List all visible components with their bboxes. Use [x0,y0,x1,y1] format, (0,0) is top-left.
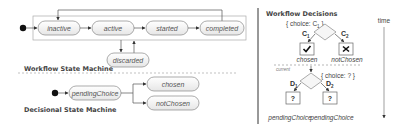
state-discarded: discarded [107,53,149,67]
workflow-state-machine-title: Workflow State Machine [24,65,114,73]
state-label-chosen: chosen [297,56,318,63]
bottom-choice-label: { choice: ? } [321,72,356,80]
workflow-decisions: Workflow Decisions { choice: C1 } C1 C2 … [266,10,391,122]
diagram-canvas: inactive active started completed discar… [0,0,407,129]
branch-label-c1: C1 [302,30,310,39]
question-icon: ? [328,95,332,102]
state-active: active [92,21,134,35]
workflow-decisions-title: Workflow Decisions [266,10,338,18]
time-label: time [378,17,391,24]
decision-diamond-bottom [300,73,322,89]
svg-text:notChosen: notChosen [156,100,190,107]
branch-label-d1: D1 [290,80,298,89]
question-icon: ? [291,95,295,102]
state-started: started [146,21,188,35]
branch-label-d2: D2 [326,80,334,89]
initial-node-icon [20,25,26,31]
state-chosen: chosen [147,77,199,91]
workflow-state-machine: inactive active started completed discar… [20,10,246,73]
decisional-state-machine: pendingChoice chosen notChosen Decisiona… [24,77,199,114]
svg-text:inactive: inactive [47,25,71,32]
state-inactive: inactive [38,21,80,35]
state-pending-choice: pendingChoice [69,86,121,100]
svg-text:started: started [156,25,179,32]
state-label-not-chosen: notChosen [331,56,363,63]
state-label-pending-1: pendingChoice [267,114,312,122]
state-label-pending-2: pendingChoice [309,114,354,122]
chosen-box [300,43,314,55]
svg-text:chosen: chosen [162,81,185,88]
svg-text:active: active [104,25,122,32]
current-label: current [276,67,291,72]
state-completed: completed [200,21,244,35]
svg-text:completed: completed [206,25,239,33]
decisional-state-machine-title: Decisional State Machine [24,106,117,114]
svg-text:pendingChoice: pendingChoice [71,90,119,98]
top-choice-label: { choice: C1 } [286,20,324,29]
state-not-chosen: notChosen [147,96,199,110]
svg-text:discarded: discarded [113,57,144,64]
branch-label-c2: C2 [341,30,349,39]
initial-node-icon [52,90,58,96]
